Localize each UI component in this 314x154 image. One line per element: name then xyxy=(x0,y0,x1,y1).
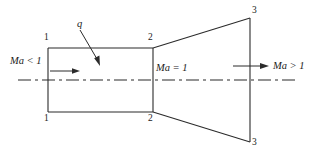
station-label-2-bottom: 2 xyxy=(148,114,153,124)
station-label-2-top: 2 xyxy=(148,33,153,43)
station-label-3-bottom: 3 xyxy=(252,138,257,148)
nozzle-upper-wall xyxy=(153,18,250,48)
duct-diagram xyxy=(0,0,314,154)
figure-canvas: 1 1 2 2 3 3 q Ma < 1 Ma = 1 Ma > 1 xyxy=(0,0,314,154)
inlet-mach-label: Ma < 1 xyxy=(10,56,42,67)
heat-flux-label: q xyxy=(77,19,82,30)
nozzle-lower-wall xyxy=(153,112,250,142)
throat-mach-label: Ma = 1 xyxy=(156,63,188,74)
inlet-flow-arrow xyxy=(50,68,80,74)
exit-flow-arrow xyxy=(233,63,269,69)
station-label-1-bottom: 1 xyxy=(44,114,49,124)
exit-mach-label: Ma > 1 xyxy=(273,61,305,72)
station-label-3-top: 3 xyxy=(252,6,257,16)
station-label-1-top: 1 xyxy=(44,33,49,43)
